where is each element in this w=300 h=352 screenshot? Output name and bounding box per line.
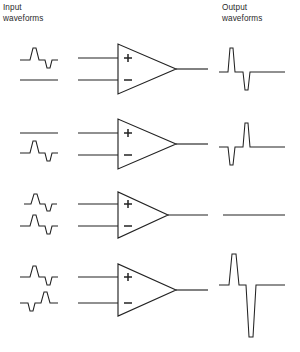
- output-waveforms-header: Output waveforms: [222, 3, 262, 24]
- row-1-opamp-symbol: [118, 44, 176, 94]
- row-2-output-waveform: [219, 123, 285, 165]
- row-2: [20, 119, 285, 169]
- row-4-opamp-symbol: [118, 264, 176, 316]
- row-3-plus-sign: [124, 200, 132, 208]
- opamp-waveform-figure: Input waveforms Output waveforms: [0, 0, 300, 352]
- row-3-input-plus-waveform: [24, 194, 57, 211]
- row-1-input-plus-waveform: [20, 48, 58, 68]
- row-3-input-minus-waveform: [20, 215, 58, 234]
- row-4-input-minus-waveform: [20, 292, 58, 311]
- row-1: [20, 44, 285, 94]
- row-3: [20, 192, 285, 238]
- row-1-plus-sign: [124, 54, 132, 62]
- row-4-plus-sign: [124, 273, 132, 281]
- row-4-input-plus-waveform: [20, 266, 58, 285]
- row-1-output-waveform: [219, 48, 285, 90]
- diagram-canvas: [0, 0, 300, 352]
- row-2-plus-sign: [124, 129, 132, 137]
- row-2-opamp-symbol: [118, 119, 176, 169]
- row-4: [20, 254, 285, 337]
- row-3-opamp-symbol: [118, 192, 168, 238]
- row-2-input-minus-waveform: [20, 141, 58, 161]
- input-waveforms-header: Input waveforms: [3, 3, 43, 24]
- row-4-output-waveform: [219, 254, 285, 337]
